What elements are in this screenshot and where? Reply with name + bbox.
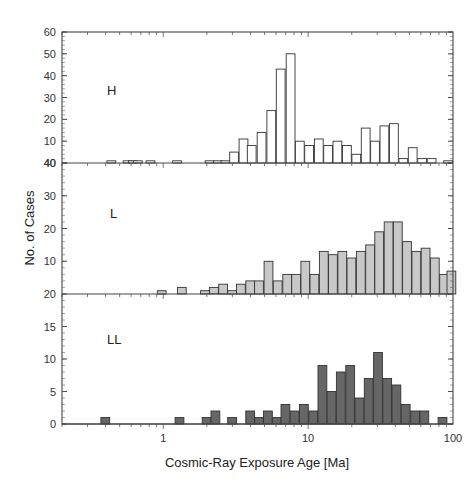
histogram-bar [393,222,402,294]
histogram-bar [230,152,239,163]
histogram-bar [101,418,110,425]
histogram-bar [430,258,439,294]
histogram-bar [283,274,292,294]
histogram-bar [314,139,323,163]
histogram-bar [175,418,184,425]
histogram-bar [264,261,273,294]
histogram-bar [305,146,314,164]
histogram-bar [211,411,220,424]
histogram-bar [228,418,237,425]
panel-l [157,222,456,294]
histogram-bar [267,111,276,163]
y-tick-label: 5 [50,386,56,398]
x-axis-title: Cosmic-Ray Exposure Age [Ma] [165,455,349,470]
histogram-bar [300,405,309,425]
histogram-bar [352,154,361,163]
histogram-bar [401,405,410,425]
y-tick-label: 60 [44,26,56,38]
histogram-bar [375,232,384,294]
histogram-bar [427,159,436,163]
histogram-bar [246,411,255,424]
histogram-bar [319,251,328,294]
histogram-bar [290,411,299,424]
histogram-bar [438,418,447,425]
histogram-bar [364,379,373,425]
y-tick-label: 15 [44,321,56,333]
histogram-bar [255,418,264,425]
histogram-bar [237,284,246,294]
x-tick-label: 100 [444,432,462,444]
panel-label-ll: LL [107,332,121,347]
histogram-bar [257,132,266,163]
histogram-bar [338,251,347,294]
histogram-bar [273,281,282,294]
histogram-bar [264,411,273,424]
histogram-bar [219,284,228,294]
histogram-bar [355,398,364,424]
histogram-bar [272,418,281,425]
y-tick-label: 30 [44,190,56,202]
histogram-bar [343,146,352,164]
histogram-bar [403,242,412,294]
histogram-bar [380,126,389,163]
histogram-bar [247,146,256,164]
histogram-bar [390,124,399,163]
histogram-bar [292,274,301,294]
y-tick-label: 50 [44,48,56,60]
histogram-chart: 401020304050602010203040051015 110100 H … [0,0,476,487]
y-tick-label: 10 [44,255,56,267]
panel-label-l: L [110,206,117,221]
histogram-bar [371,141,380,163]
histogram-bar [281,405,290,425]
histogram-bar [177,287,186,294]
y-tick-label: 20 [44,113,56,125]
histogram-bar [276,69,285,163]
y-tick-label: 10 [44,135,56,147]
histogram-bar [301,261,310,294]
histogram-bar [329,255,338,294]
histogram-bar [246,281,255,294]
histogram-bar [255,281,264,294]
y-axis-title: No. of Cases [22,190,37,266]
y-tick-label: 0 [50,418,56,430]
histogram-bar [346,366,355,425]
histogram-bar [310,274,319,294]
panel-ll [101,353,447,425]
x-axis-ticks: 110100 [160,432,462,444]
histogram-bar [420,411,429,424]
histogram-bar [374,353,383,425]
histogram-bar [392,385,401,424]
histogram-bar [356,251,365,294]
y-tick-label: 10 [44,353,56,365]
histogram-bar [333,141,342,163]
histogram-bar [399,159,408,163]
histogram-bar [408,148,417,163]
y-tick-label: 40 [44,157,56,169]
y-tick-label: 40 [44,70,56,82]
histogram-bar [361,128,370,163]
x-tick-label: 10 [302,432,314,444]
panels-group [101,54,456,424]
y-tick-label: 20 [44,288,56,300]
histogram-bar [384,222,393,294]
y-tick-label: 20 [44,223,56,235]
histogram-bar [383,379,392,425]
histogram-bar [318,366,327,425]
histogram-bar [239,139,248,163]
panel-label-h: H [107,83,116,98]
histogram-bar [336,372,345,424]
histogram-bar [421,248,430,294]
histogram-bar [412,251,421,294]
histogram-bar [327,392,336,425]
histogram-bar [202,418,211,425]
histogram-bar [295,141,304,163]
histogram-bar [210,287,219,294]
histogram-bar [347,258,356,294]
histogram-bar [411,411,420,424]
x-tick-label: 1 [160,432,166,444]
panel-h [107,54,453,163]
histogram-bar [418,159,427,163]
y-tick-label: 30 [44,92,56,104]
histogram-bar [366,245,375,294]
histogram-bar [286,54,295,163]
